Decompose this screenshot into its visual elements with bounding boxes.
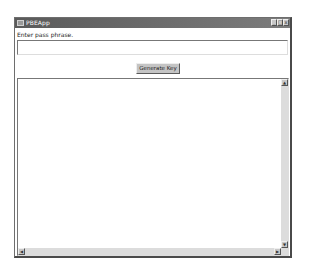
window-controls: _ □ x	[271, 19, 289, 26]
app-window: PBEApp _ □ x Enter pass phrase. Generate…	[14, 17, 292, 258]
passphrase-label: Enter pass phrase.	[17, 31, 73, 38]
app-icon[interactable]	[17, 20, 24, 26]
vertical-scrollbar[interactable]: ▲ ▼	[281, 79, 288, 248]
scroll-right-icon[interactable]: ▶	[274, 248, 281, 255]
title-bar[interactable]: PBEApp _ □ x	[15, 18, 290, 28]
passphrase-input[interactable]	[17, 40, 288, 55]
horizontal-scrollbar[interactable]: ◀ ▶	[18, 248, 281, 255]
scrollbar-corner	[281, 248, 288, 255]
generate-key-button[interactable]: Generate Key	[136, 63, 180, 74]
scroll-left-icon[interactable]: ◀	[18, 248, 25, 255]
window-title: PBEApp	[26, 18, 50, 28]
close-button[interactable]: x	[283, 19, 289, 26]
output-text-area[interactable]: ▲ ▼ ◀ ▶	[17, 78, 289, 256]
scroll-down-icon[interactable]: ▼	[281, 241, 288, 248]
scroll-up-icon[interactable]: ▲	[281, 79, 288, 86]
